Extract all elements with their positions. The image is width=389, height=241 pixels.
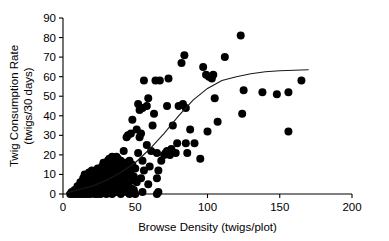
y-tick-label: 80 <box>43 32 56 44</box>
data-point <box>191 139 199 147</box>
data-point <box>209 71 217 79</box>
data-point <box>196 155 204 163</box>
data-point <box>154 167 162 175</box>
data-point <box>238 110 246 118</box>
data-point <box>172 149 180 157</box>
data-point <box>214 118 222 126</box>
data-point <box>153 174 161 182</box>
data-point <box>199 63 207 71</box>
y-tick-label: 10 <box>43 168 56 180</box>
y-axis-title-line1: Twig Consumption Rate <box>8 45 20 167</box>
data-point <box>237 32 245 40</box>
data-point <box>177 59 185 67</box>
y-tick-label: 0 <box>50 188 56 200</box>
data-point <box>204 127 212 135</box>
data-point <box>140 77 148 85</box>
data-point <box>149 122 157 130</box>
data-point <box>156 77 164 85</box>
data-point <box>284 88 292 96</box>
data-point <box>137 129 145 137</box>
data-point <box>173 139 181 147</box>
data-point <box>297 77 305 85</box>
data-point <box>137 174 145 182</box>
data-point <box>163 102 171 110</box>
data-point <box>138 188 146 196</box>
data-point <box>258 88 266 96</box>
data-point <box>131 165 139 173</box>
data-point <box>186 125 194 133</box>
data-point <box>150 110 158 118</box>
y-tick-label: 40 <box>43 110 56 122</box>
y-tick-label: 50 <box>43 90 56 102</box>
data-point <box>180 51 188 59</box>
data-point <box>164 75 172 83</box>
data-point <box>154 188 162 196</box>
data-point <box>284 127 292 135</box>
data-point <box>240 86 248 94</box>
data-point <box>144 94 152 102</box>
data-point <box>144 180 152 188</box>
x-tick-label: 100 <box>198 201 217 213</box>
data-point <box>211 94 219 102</box>
data-point <box>183 149 191 157</box>
data-point <box>146 163 154 171</box>
data-point <box>120 147 128 155</box>
scatter-plot: 0102030405060708090 050100150200 Browse … <box>0 0 389 241</box>
y-axis-title-line2: (twigs/30 days) <box>22 67 34 145</box>
data-point <box>273 90 281 98</box>
data-point <box>182 139 190 147</box>
data-point <box>153 149 161 157</box>
chart-figure: 0102030405060708090 050100150200 Browse … <box>0 0 389 241</box>
data-point <box>221 53 229 61</box>
x-tick-label: 50 <box>129 201 142 213</box>
data-point <box>134 149 142 157</box>
data-points-layer <box>66 32 305 198</box>
y-tick-label: 30 <box>43 129 56 141</box>
x-axis-title: Browse Density (twigs/plot) <box>138 221 277 233</box>
y-tick-label: 90 <box>43 12 56 24</box>
x-tick-label: 200 <box>342 201 361 213</box>
y-tick-label: 60 <box>43 71 56 83</box>
y-axis: 0102030405060708090 <box>43 12 63 200</box>
data-point <box>131 190 139 198</box>
y-tick-label: 20 <box>43 149 56 161</box>
data-point <box>128 116 136 124</box>
x-tick-label: 0 <box>60 201 66 213</box>
data-point <box>143 102 151 110</box>
x-tick-label: 150 <box>270 201 289 213</box>
y-tick-label: 70 <box>43 51 56 63</box>
